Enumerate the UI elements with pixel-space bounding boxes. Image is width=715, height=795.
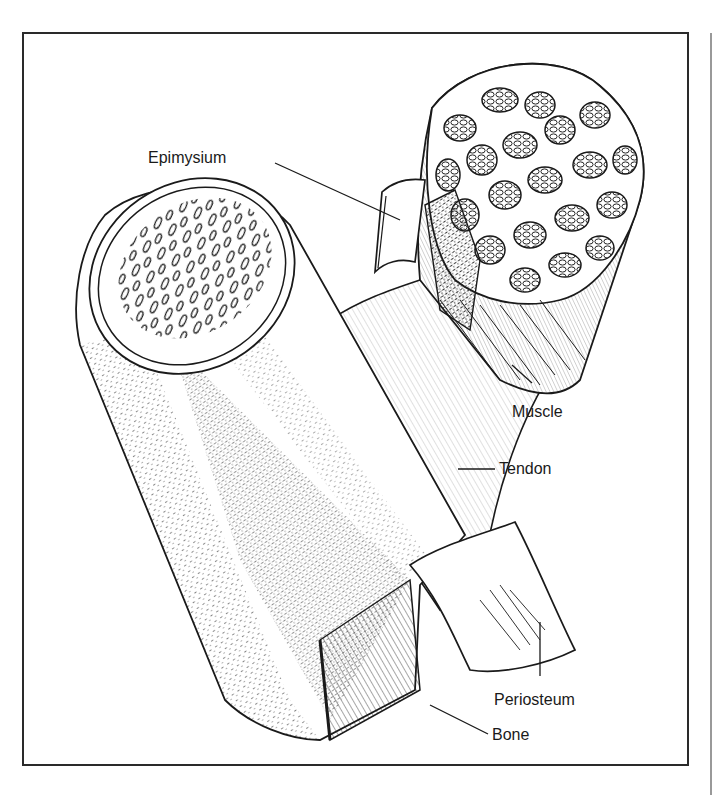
label-muscle: Muscle	[512, 404, 563, 420]
label-bone: Bone	[492, 727, 529, 743]
epimysium-flap	[375, 179, 425, 272]
leader-epimysium	[275, 163, 400, 220]
leader-bone	[430, 705, 488, 734]
label-tendon: Tendon	[499, 461, 552, 477]
label-periosteum: Periosteum	[494, 692, 575, 708]
anatomy-diagram	[0, 0, 715, 795]
label-epimysium: Epimysium	[148, 150, 226, 166]
